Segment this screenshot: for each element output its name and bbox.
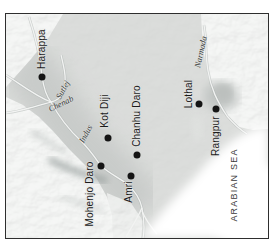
river-label-narmada: Narmada: [193, 35, 208, 68]
site-dot-lothal: [196, 101, 203, 108]
site-dot-mohenjo-daro: [98, 163, 105, 170]
site-dot-rangpur: [213, 106, 220, 113]
site-label-mohenjo-daro: Mohenjo Daro: [85, 161, 95, 226]
site-dot-amri: [128, 173, 135, 180]
river-label-indus: Indus: [78, 124, 95, 145]
site-label-chanhu-daro: Chanhu Daro: [132, 85, 142, 147]
site-label-harappa: Harappa: [37, 29, 47, 69]
site-label-kot-diji: Kot Diji: [100, 94, 110, 127]
site-dot-chanhu-daro: [134, 152, 141, 159]
site-label-amri: Amri: [124, 181, 134, 202]
map-frame: HarappaKot DijiChanhu DaroMohenjo DaroAm…: [5, 13, 269, 239]
site-label-lothal: Lothal: [184, 80, 194, 108]
site-dot-kot-diji: [104, 134, 111, 141]
site-label-rangpur: Rangpur: [211, 116, 221, 156]
site-dot-harappa: [39, 73, 46, 80]
map-screenshot: HarappaKot DijiChanhu DaroMohenjo DaroAm…: [0, 0, 276, 246]
sea-label: ARABIAN SEA: [229, 148, 239, 221]
marker-layer: HarappaKot DijiChanhu DaroMohenjo DaroAm…: [6, 14, 268, 238]
